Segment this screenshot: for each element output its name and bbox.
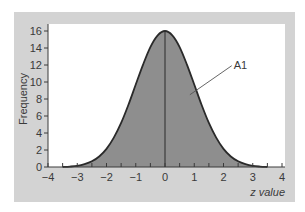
y-tick-label: 4 xyxy=(36,127,42,139)
x-axis-title: z value xyxy=(249,186,285,198)
normal-distribution-chart: 0246810121416−4−3−2−101234 A1 z value Fr… xyxy=(0,0,305,212)
y-tick-label: 12 xyxy=(30,59,42,71)
y-tick-label: 6 xyxy=(36,110,42,122)
x-tick-label: 3 xyxy=(250,171,256,183)
x-tick-label: 2 xyxy=(220,171,226,183)
x-tick-label: 4 xyxy=(279,171,285,183)
x-tick-label: −3 xyxy=(71,171,84,183)
x-tick-label: 0 xyxy=(162,171,168,183)
x-tick-label: 1 xyxy=(191,171,197,183)
x-tick-label: −1 xyxy=(129,171,142,183)
y-tick-label: 10 xyxy=(30,76,42,88)
y-tick-label: 8 xyxy=(36,93,42,105)
annotation-a1: A1 xyxy=(234,59,247,71)
y-tick-label: 2 xyxy=(36,144,42,156)
y-axis-title: Frequency xyxy=(17,73,29,125)
x-tick-label: −2 xyxy=(100,171,113,183)
x-tick-label: −4 xyxy=(42,171,55,183)
y-tick-label: 14 xyxy=(30,42,42,54)
y-tick-label: 16 xyxy=(30,25,42,37)
